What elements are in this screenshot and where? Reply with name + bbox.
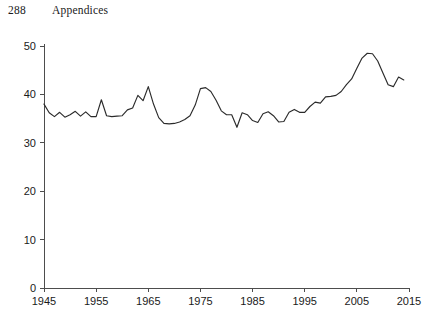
x-tick-label: 1985 bbox=[240, 295, 264, 307]
x-tick-label: 1975 bbox=[188, 295, 212, 307]
x-tick-label: 1965 bbox=[136, 295, 160, 307]
y-tick-label: 0 bbox=[30, 282, 36, 294]
x-axis-tick-labels: 19451955196519751985199520052015 bbox=[32, 295, 421, 307]
y-tick-label: 30 bbox=[24, 137, 36, 149]
x-tick-label: 2015 bbox=[397, 295, 421, 307]
x-axis-tick-marks bbox=[44, 288, 409, 292]
x-tick-label: 2005 bbox=[345, 295, 369, 307]
y-axis-tick-labels: 01020304050 bbox=[24, 40, 36, 294]
running-head-title: Appendices bbox=[52, 4, 108, 16]
x-tick-label: 1955 bbox=[84, 295, 108, 307]
running-head: 288 Appendices bbox=[0, 0, 424, 26]
y-tick-label: 40 bbox=[24, 88, 36, 100]
data-series-line bbox=[44, 53, 404, 127]
y-tick-label: 50 bbox=[24, 40, 36, 52]
x-tick-label: 1945 bbox=[32, 295, 56, 307]
y-tick-label: 20 bbox=[24, 185, 36, 197]
y-tick-label: 10 bbox=[24, 234, 36, 246]
y-axis-tick-marks bbox=[40, 46, 44, 288]
page-number: 288 bbox=[8, 4, 26, 16]
x-tick-label: 1995 bbox=[292, 295, 316, 307]
chart-canvas: 01020304050 1945195519651975198519952005… bbox=[0, 26, 424, 321]
line-chart: 01020304050 1945195519651975198519952005… bbox=[0, 26, 424, 321]
book-page: 288 Appendices 01020304050 1945195519651… bbox=[0, 0, 424, 321]
